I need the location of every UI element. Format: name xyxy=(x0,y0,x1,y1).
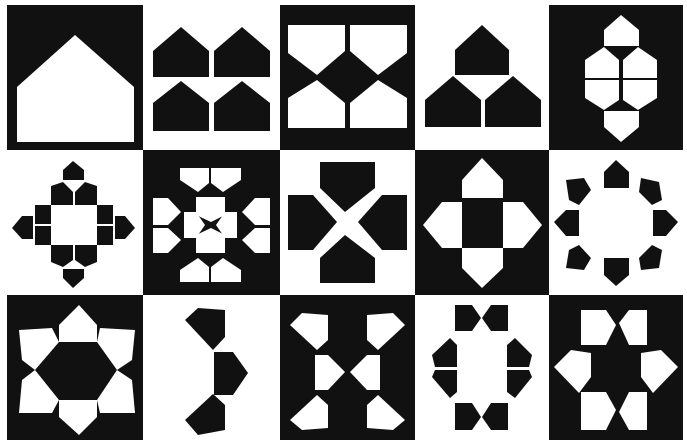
tile-r3c2 xyxy=(143,295,280,440)
square-cross-icon xyxy=(415,150,549,295)
tile-r1c4 xyxy=(415,5,549,150)
tile-r2c3 xyxy=(280,150,415,295)
hourglass-x-icon xyxy=(280,295,415,440)
tile-r3c1 xyxy=(7,295,143,440)
hexagon-rosette-icon xyxy=(7,295,143,440)
tile-r1c1 xyxy=(7,5,143,150)
diamond-pentagons-icon xyxy=(280,5,415,150)
tile-r1c3 xyxy=(280,5,415,150)
tile-grid xyxy=(0,0,687,445)
house-pentagon-icon xyxy=(7,5,143,150)
x-cross-icon xyxy=(280,150,415,295)
tile-r2c1 xyxy=(7,150,143,295)
tile-r3c4 xyxy=(415,295,549,440)
four-pentagons-icon xyxy=(143,5,280,150)
octagon-ring-icon xyxy=(549,150,683,295)
tile-r1c2 xyxy=(143,5,280,150)
tile-r2c4 xyxy=(415,150,549,295)
tile-r3c3 xyxy=(280,295,415,440)
cross-star-icon xyxy=(143,150,280,295)
hexagon-pentagons-icon xyxy=(549,5,683,150)
tile-r3c5 xyxy=(549,295,683,440)
oval-ring-icon xyxy=(415,295,549,440)
tile-r2c5 xyxy=(549,150,683,295)
star-pentagons-icon xyxy=(549,295,683,440)
tile-r1c5 xyxy=(549,5,683,150)
diamond-ring-icon xyxy=(7,150,143,295)
arc-pentagons-icon xyxy=(143,295,280,440)
pyramid-pentagons-icon xyxy=(415,5,549,150)
tile-r2c2 xyxy=(143,150,280,295)
